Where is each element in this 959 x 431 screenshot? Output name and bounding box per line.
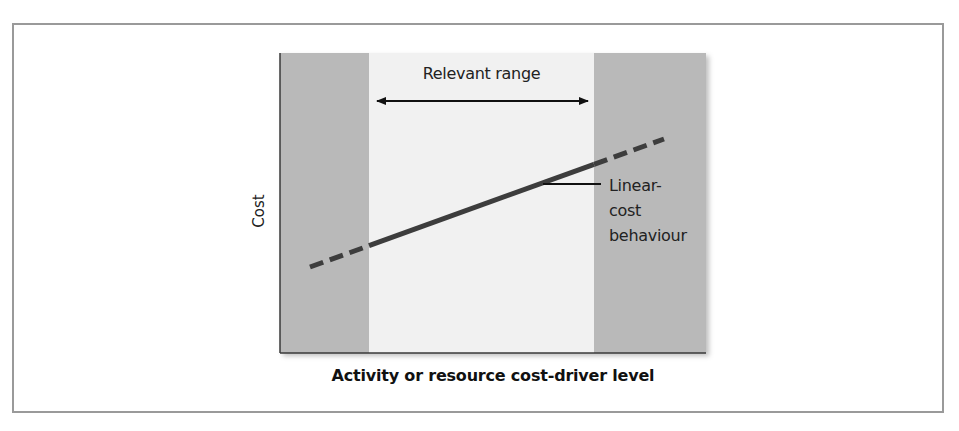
callout-line-3: behaviour (609, 223, 687, 248)
relevant-range-label: Relevant range (369, 64, 594, 83)
y-axis-label-text: Cost (250, 194, 268, 227)
callout-line-2: cost (609, 198, 687, 223)
callout-line-1: Linear- (609, 173, 687, 198)
y-axis-label: Cost (246, 196, 272, 226)
x-axis-label: Activity or resource cost-driver level (280, 366, 706, 385)
linear-cost-callout: Linear- cost behaviour (609, 173, 687, 248)
